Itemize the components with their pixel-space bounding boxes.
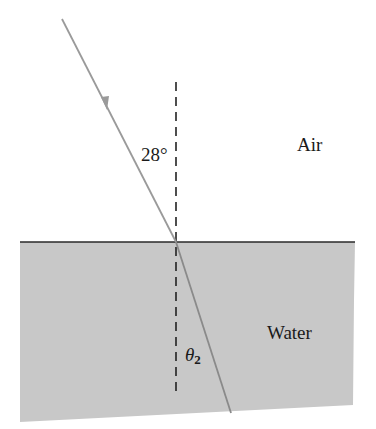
incident-angle-label: 28° [141,145,168,164]
water-text: Water [267,322,312,343]
theta-subscript: 2 [194,352,201,367]
water-label: Water [267,323,312,342]
theta-symbol: θ [185,344,194,365]
air-label: Air [297,135,322,154]
air-text: Air [297,134,322,155]
incident-ray [62,19,176,242]
incident-angle-value: 28° [141,144,168,165]
refracted-angle-label: θ2 [185,345,201,366]
